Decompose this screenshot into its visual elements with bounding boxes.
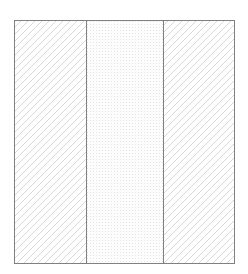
region-center-stippled xyxy=(86,20,163,263)
region-left-hatched xyxy=(14,20,86,263)
diagram-canvas xyxy=(0,0,248,274)
region-right-hatched xyxy=(163,20,234,263)
cross-section-diagram xyxy=(0,0,248,274)
